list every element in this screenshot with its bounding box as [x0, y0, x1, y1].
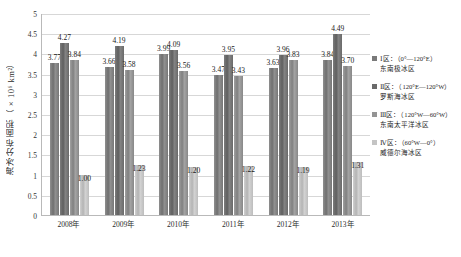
bar-slot: 3.58	[125, 14, 134, 215]
bar-slot: 3.96	[279, 14, 288, 215]
y-axis-tick-label: 3	[33, 90, 37, 99]
legend-swatch-icon	[372, 112, 377, 117]
bar[interactable]: 3.43	[234, 76, 243, 215]
bar[interactable]: 4.19	[115, 46, 124, 215]
y-axis-tick-label: 4.5	[28, 30, 37, 39]
legend-label-line1: Ⅲ区：（120°W—60°W）	[380, 110, 452, 120]
x-axis-category-label: 2009年	[96, 218, 151, 229]
plot-area: 3.774.273.841.003.664.193.581.233.994.09…	[41, 14, 370, 216]
bar-slot: 1.31	[353, 14, 362, 215]
bar-slot: 3.47	[214, 14, 223, 215]
bar-slot: 1.20	[189, 14, 198, 215]
bar-slot: 4.19	[115, 14, 124, 215]
bar-slot: 4.09	[169, 14, 178, 215]
y-axis-tick-label: 0	[33, 212, 37, 221]
bar-value-label: 1.00	[78, 174, 91, 183]
bar-slot: 3.70	[343, 14, 352, 215]
bar[interactable]: 1.22	[244, 166, 253, 215]
bar-slot: 3.56	[179, 14, 188, 215]
bar-value-label: 1.19	[296, 166, 309, 175]
legend: Ⅰ区：（0°—120°E）东南极冰区Ⅱ区：（120°E—120°W）罗斯海冰区Ⅲ…	[372, 54, 460, 166]
bar[interactable]: 3.56	[179, 71, 188, 215]
legend-label-line1: Ⅳ区：（60°W—0°）	[380, 138, 440, 148]
legend-label-line1: Ⅰ区：（0°—120°E）	[380, 54, 437, 64]
bar-group: 3.994.093.561.20	[151, 14, 206, 215]
bar-slot: 4.49	[333, 14, 342, 215]
bar-value-label: 1.20	[187, 166, 200, 175]
legend-label-line2: 东南太平洋冰区	[380, 120, 452, 130]
bar-slot: 1.22	[244, 14, 253, 215]
bar-value-label: 1.22	[242, 165, 255, 174]
x-axis-category-label: 2011年	[205, 218, 260, 229]
y-axis-tick-label: 3.5	[28, 70, 37, 79]
legend-label: Ⅰ区：（0°—120°E）东南极冰区	[380, 54, 437, 73]
legend-swatch-icon	[372, 84, 377, 89]
bar[interactable]: 3.47	[214, 75, 223, 215]
bar-slot: 1.00	[80, 14, 89, 215]
y-axis-tick-label: 5	[33, 10, 37, 19]
bar[interactable]: 3.95	[224, 55, 233, 215]
x-axis-labels: 2008年2009年2010年2011年2012年2013年	[41, 218, 370, 229]
legend-item[interactable]: Ⅳ区：（60°W—0°）威德尔海冰区	[372, 138, 460, 157]
legend-label: Ⅱ区：（120°E—120°W）罗斯海冰区	[380, 82, 451, 101]
legend-item[interactable]: Ⅲ区：（120°W—60°W）东南太平洋冰区	[372, 110, 460, 129]
bar[interactable]: 4.09	[169, 50, 178, 215]
bar-group: 3.633.963.831.19	[261, 14, 316, 215]
y-axis-tick-label: 0.5	[28, 191, 37, 200]
bar-slot: 3.43	[234, 14, 243, 215]
bar-slot: 3.84	[323, 14, 332, 215]
legend-item[interactable]: Ⅱ区：（120°E—120°W）罗斯海冰区	[372, 82, 460, 101]
bar[interactable]: 3.83	[289, 60, 298, 215]
legend-label-line2: 罗斯海冰区	[380, 92, 451, 102]
y-axis-title-text: 海冰分布面积（×10⁶ km²）	[5, 58, 17, 175]
bar[interactable]: 3.66	[105, 67, 114, 215]
x-axis-category-label: 2008年	[41, 218, 96, 229]
x-axis-category-label: 2013年	[315, 218, 370, 229]
bar-slot: 3.77	[50, 14, 59, 215]
x-axis-category-label: 2010年	[151, 218, 206, 229]
bar-slot: 4.27	[60, 14, 69, 215]
bar-slot: 3.83	[289, 14, 298, 215]
x-axis-category-label: 2012年	[260, 218, 315, 229]
legend-label: Ⅲ区：（120°W—60°W）东南太平洋冰区	[380, 110, 452, 129]
legend-swatch-icon	[372, 140, 377, 145]
bar[interactable]: 1.31	[353, 162, 362, 215]
legend-item[interactable]: Ⅰ区：（0°—120°E）东南极冰区	[372, 54, 460, 73]
bar-slot: 3.84	[70, 14, 79, 215]
sea-ice-bar-chart: 海冰分布面积（×10⁶ km²） 54.543.532.521.510.50 3…	[0, 0, 461, 257]
y-axis-ticks: 54.543.532.521.510.50	[18, 14, 40, 216]
bar[interactable]: 3.70	[343, 66, 352, 215]
y-axis-tick-label: 1.5	[28, 151, 37, 160]
bar-slot: 1.19	[299, 14, 308, 215]
bar-group: 3.664.193.581.23	[97, 14, 152, 215]
bar-slot: 1.23	[135, 14, 144, 215]
bar[interactable]: 4.27	[60, 43, 69, 216]
bar-value-label: 1.23	[132, 164, 145, 173]
bar[interactable]: 1.19	[299, 167, 308, 215]
bar-groups: 3.774.273.841.003.664.193.581.233.994.09…	[42, 14, 370, 215]
bar[interactable]: 3.84	[70, 60, 79, 215]
bar-group: 3.844.493.701.31	[315, 14, 370, 215]
bar[interactable]: 3.77	[50, 63, 59, 215]
y-axis-tick-label: 4	[33, 50, 37, 59]
y-axis-tick-label: 1	[33, 171, 37, 180]
bar[interactable]: 3.96	[279, 55, 288, 215]
y-axis-tick-label: 2	[33, 131, 37, 140]
bar[interactable]: 3.99	[159, 54, 168, 215]
bar[interactable]: 3.84	[323, 60, 332, 215]
bar-group: 3.473.953.431.22	[206, 14, 261, 215]
bar-value-label: 1.31	[351, 161, 364, 170]
legend-swatch-icon	[372, 56, 377, 61]
bar[interactable]: 1.20	[189, 167, 198, 215]
legend-label-line2: 威德尔海冰区	[380, 148, 440, 158]
bar[interactable]: 3.58	[125, 70, 134, 215]
bar[interactable]: 1.23	[135, 165, 144, 215]
legend-label-line2: 东南极冰区	[380, 64, 437, 74]
legend-label-line1: Ⅱ区：（120°E—120°W）	[380, 82, 451, 92]
bar[interactable]: 1.00	[80, 175, 89, 215]
bar[interactable]: 3.63	[269, 68, 278, 215]
bar-slot: 3.95	[224, 14, 233, 215]
legend-label: Ⅳ区：（60°W—0°）威德尔海冰区	[380, 138, 440, 157]
bar-group: 3.774.273.841.00	[42, 14, 97, 215]
y-axis-tick-label: 2.5	[28, 111, 37, 120]
